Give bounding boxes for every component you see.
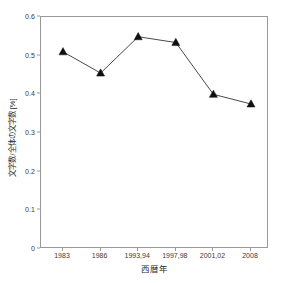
y-tick-label: 0.4 <box>25 90 35 97</box>
data-series-group <box>41 17 269 249</box>
x-tick-label: 2001,02 <box>200 252 225 259</box>
y-tick-label: 0 <box>31 245 35 252</box>
series-line <box>63 37 251 104</box>
x-tick-mark <box>212 248 213 251</box>
data-point-marker <box>209 90 217 97</box>
series-markers <box>59 33 255 108</box>
x-axis-tick-labels: 198319861993,941997,982001,022008 <box>40 248 268 262</box>
y-tick-label: 0.6 <box>25 13 35 20</box>
x-tick-mark <box>175 248 176 251</box>
x-axis-title: 西暦年 <box>40 262 268 274</box>
y-tick-label: 0.2 <box>25 167 35 174</box>
x-tick-mark <box>137 248 138 251</box>
chart-container: 文字数/全体の文字数 [%] 00.10.20.30.40.50.6 19831… <box>0 0 282 283</box>
y-tick-label: 0.1 <box>25 206 35 213</box>
x-tick-label: 1993,94 <box>125 252 150 259</box>
x-tick-label: 1997,98 <box>162 252 187 259</box>
y-tick-label: 0.5 <box>25 51 35 58</box>
x-tick-label: 1986 <box>92 252 108 259</box>
data-point-marker <box>59 48 67 55</box>
x-tick-label: 2008 <box>242 252 258 259</box>
y-axis-tick-labels: 00.10.20.30.40.50.6 <box>0 16 40 248</box>
x-tick-mark <box>62 248 63 251</box>
x-tick-mark <box>100 248 101 251</box>
x-tick-label: 1983 <box>54 252 70 259</box>
plot-area <box>40 16 268 248</box>
data-point-marker <box>134 33 142 40</box>
y-tick-label: 0.3 <box>25 129 35 136</box>
x-tick-mark <box>250 248 251 251</box>
